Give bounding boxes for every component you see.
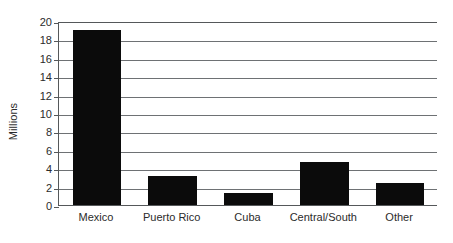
x-axis-tick-label: Puerto Rico	[143, 210, 200, 224]
y-axis-tick-label: 10	[6, 109, 52, 120]
bar	[224, 193, 273, 205]
x-axis-tick-label: Other	[385, 210, 413, 224]
y-axis-tick-label: 20	[6, 17, 52, 28]
y-axis-tick-mark	[54, 207, 59, 208]
y-axis-tick-label: 16	[6, 53, 52, 64]
x-axis-tick-label: Cuba	[234, 210, 260, 224]
y-axis-tick-mark	[54, 23, 59, 24]
bar	[73, 30, 122, 205]
y-axis-tick-mark	[54, 97, 59, 98]
x-axis-tick-label: Mexico	[78, 210, 113, 224]
y-axis-tick-mark	[54, 41, 59, 42]
plot-area	[58, 22, 437, 206]
y-axis-tick-mark	[54, 60, 59, 61]
bar	[376, 183, 425, 205]
y-axis-tick-label: 6	[6, 145, 52, 156]
x-axis-tick-labels: MexicoPuerto RicoCubaCentral/SouthOther	[58, 210, 437, 230]
bar-chart: Millions 02468101214161820 MexicoPuerto …	[0, 0, 453, 243]
y-axis-tick-label: 0	[6, 201, 52, 212]
y-axis-tick-mark	[54, 189, 59, 190]
y-axis-tick-mark	[54, 170, 59, 171]
y-axis-tick-label: 8	[6, 127, 52, 138]
y-axis-tick-label: 18	[6, 35, 52, 46]
y-axis-tick-mark	[54, 78, 59, 79]
y-axis-tick-mark	[54, 133, 59, 134]
y-axis-tick-label: 14	[6, 72, 52, 83]
bar	[148, 176, 197, 205]
x-axis-tick-label: Central/South	[290, 210, 357, 224]
y-axis-tick-labels: 02468101214161820	[0, 22, 52, 206]
y-axis-tick-label: 12	[6, 90, 52, 101]
y-axis-tick-label: 2	[6, 182, 52, 193]
y-axis-tick-mark	[54, 152, 59, 153]
y-axis-tick-label: 4	[6, 164, 52, 175]
y-axis-tick-mark	[54, 115, 59, 116]
bar	[300, 162, 349, 205]
